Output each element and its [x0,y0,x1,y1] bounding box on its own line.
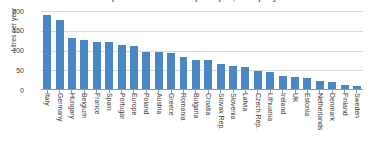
x-axis-category-label: Portugal [118,93,125,119]
bar-slot [301,11,313,89]
bar[interactable] [105,42,113,89]
y-axis-tick-label: 0 [0,87,24,94]
x-axis-category-label: Sweden [353,93,360,118]
x-label-slot: Estonia [301,93,313,151]
bar-slot [289,11,301,89]
x-axis-category-label: Hungary [68,93,75,119]
x-label-slot: Slovak Rep. [214,93,226,151]
bar[interactable] [254,71,262,89]
x-label-slot: Finland [338,93,350,151]
bar-slot [177,11,189,89]
x-label-slot: Croatia [202,93,214,151]
x-axis-category-label: France [93,93,100,114]
bar[interactable] [180,57,188,89]
bar[interactable] [266,72,274,89]
bar-slot [165,11,177,89]
x-label-slot: Poland [140,93,152,151]
x-axis-category-label: Estonia [304,93,311,116]
bar[interactable] [217,64,225,89]
x-axis-category-label: Czech Rep. [254,93,261,129]
bar[interactable] [155,52,163,89]
x-axis-category-label: Slovenia [230,93,237,119]
x-label-slot: Czech Rep. [252,93,264,151]
y-axis-tick-label: 50 [0,67,24,74]
bar[interactable] [93,42,101,89]
bar-slot [252,11,264,89]
x-axis-category-label: Finland [341,93,348,116]
bar-slot [338,11,350,89]
x-axis-category-label: Netherlands [316,93,323,130]
bar-slot [314,11,326,89]
bar-slot [78,11,90,89]
bar-slot [326,11,338,89]
x-axis-category-label: Spain [106,93,113,111]
bar[interactable] [56,20,64,89]
x-label-slot: UK [289,93,301,151]
bar[interactable] [43,15,51,89]
x-label-slot: Denmark [326,93,338,151]
bar[interactable] [204,60,212,89]
bar-slot [190,11,202,89]
x-label-slot: Italy [41,93,53,151]
x-label-slot: Greece [165,93,177,151]
bar-slot [53,11,65,89]
x-label-slot: Germany [53,93,65,151]
x-label-slot: Bulgaria [190,93,202,151]
bar[interactable] [68,38,76,89]
x-label-slot: Europe [128,93,140,151]
x-label-slot: Hungary [66,93,78,151]
x-axis-category-label: Latvia [242,93,249,111]
bar[interactable] [303,78,311,89]
x-axis-category-label: Italy [44,93,51,106]
chart-title: Consumption of bottled water per capita,… [0,0,369,2]
x-axis-category-label: Germany [56,93,63,121]
bar[interactable] [142,52,150,89]
x-axis-category-label: Slovak Rep. [217,93,224,130]
bar[interactable] [130,46,138,89]
x-label-slot: Sweden [351,93,363,151]
bar-slot [41,11,53,89]
x-label-slot: Belgium [78,93,90,151]
bar-slot [103,11,115,89]
x-axis-category-label: Romania [180,93,187,121]
bar-slot [239,11,251,89]
x-label-slot: Netherlands [314,93,326,151]
bar[interactable] [279,76,287,89]
bar-slot [202,11,214,89]
x-axis-category-label: Belgium [81,93,88,118]
y-axis-tick-label: 100 [0,47,24,54]
bar[interactable] [229,66,237,89]
bar-series [41,11,363,89]
bar[interactable] [192,60,200,89]
bar-slot [264,11,276,89]
bar-chart: Consumption of bottled water per capita,… [0,0,369,151]
x-axis-category-label: Lithuania [267,93,274,121]
bar-slot [66,11,78,89]
bar[interactable] [328,82,336,89]
bar-slot [140,11,152,89]
bar-slot [153,11,165,89]
x-axis-category-label: Poland [143,93,150,114]
bar[interactable] [80,40,88,89]
x-axis-category-label: Austria [155,93,162,114]
x-axis-category-label: Bulgaria [192,93,199,118]
bar[interactable] [241,67,249,89]
bar-slot [115,11,127,89]
bar-slot [214,11,226,89]
y-axis-tick-label: 200 [0,8,24,15]
bar[interactable] [316,81,324,89]
x-label-slot: Latvia [239,93,251,151]
bar[interactable] [167,53,175,89]
x-axis-category-label: Ireland [279,93,286,114]
bar-slot [128,11,140,89]
x-label-slot: Spain [103,93,115,151]
x-axis-category-label: Greece [168,93,175,116]
x-axis-category-label: Denmark [329,93,336,121]
bar[interactable] [118,45,126,89]
bar-slot [227,11,239,89]
x-axis-category-label: Europe [130,93,137,115]
y-axis-tick-label: 150 [0,27,24,34]
bar[interactable] [291,77,299,89]
plot-area [41,11,363,90]
x-label-slot: Slovenia [227,93,239,151]
